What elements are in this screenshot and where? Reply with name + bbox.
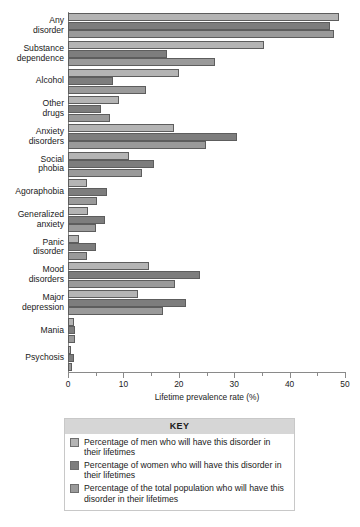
bar-men bbox=[68, 69, 179, 77]
bar-men bbox=[68, 41, 264, 49]
bar-women bbox=[68, 188, 107, 196]
lifetime-prevalence-bar-chart: Any disorderSubstance dependenceAlcoholO… bbox=[0, 0, 360, 408]
bar-men bbox=[68, 96, 119, 104]
axis-tick-minor bbox=[96, 373, 97, 376]
bar-women bbox=[68, 243, 96, 251]
axis-tick-major bbox=[345, 373, 346, 378]
axis-tick-major bbox=[179, 373, 180, 378]
key-title: KEY bbox=[65, 419, 294, 434]
bar-men bbox=[68, 207, 88, 215]
key-swatch-women bbox=[70, 461, 79, 470]
axis-tick-minor bbox=[207, 373, 208, 376]
category-label: Social phobia bbox=[0, 155, 64, 174]
axis-tick-label: 40 bbox=[285, 379, 294, 389]
bar-group bbox=[68, 13, 345, 38]
bar-women bbox=[68, 22, 330, 30]
category-label: Generalized anxiety bbox=[0, 210, 64, 229]
bar-total bbox=[68, 224, 96, 232]
bar-men bbox=[68, 346, 71, 354]
axis-tick-major bbox=[68, 373, 69, 378]
plot-area bbox=[68, 12, 345, 372]
category-label: Substance dependence bbox=[0, 44, 64, 63]
category-label: Major depression bbox=[0, 293, 64, 312]
bar-total bbox=[68, 114, 110, 122]
axis-tick-major bbox=[290, 373, 291, 378]
key-item: Percentage of men who will have this dis… bbox=[70, 437, 289, 458]
bar-men bbox=[68, 290, 138, 298]
bar-total bbox=[68, 30, 334, 38]
bar-women bbox=[68, 133, 237, 141]
category-label: Mood disorders bbox=[0, 265, 64, 284]
bar-total bbox=[68, 141, 206, 149]
bar-total bbox=[68, 335, 75, 343]
category-label: Agoraphobia bbox=[0, 187, 64, 197]
category-label: Alcohol bbox=[0, 76, 64, 86]
bar-group bbox=[68, 41, 345, 66]
bar-men bbox=[68, 124, 174, 132]
axis-tick-label: 20 bbox=[174, 379, 183, 389]
bar-total bbox=[68, 58, 215, 66]
bar-total bbox=[68, 169, 142, 177]
key-item: Percentage of women who will have this d… bbox=[70, 460, 289, 481]
bar-group bbox=[68, 179, 345, 204]
bar-total bbox=[68, 197, 97, 205]
bar-men bbox=[68, 179, 87, 187]
bar-women bbox=[68, 271, 200, 279]
bar-group bbox=[68, 96, 345, 121]
key-items: Percentage of men who will have this dis… bbox=[65, 434, 294, 511]
bar-group bbox=[68, 152, 345, 177]
bar-group bbox=[68, 290, 345, 315]
bar-women bbox=[68, 50, 167, 58]
axis-tick-major bbox=[123, 373, 124, 378]
chart-key: KEY Percentage of men who will have this… bbox=[64, 418, 295, 511]
bar-men bbox=[68, 152, 129, 160]
bar-total bbox=[68, 363, 72, 371]
category-label: Mania bbox=[0, 326, 64, 336]
bar-women bbox=[68, 105, 101, 113]
bar-women bbox=[68, 354, 74, 362]
bar-women bbox=[68, 160, 154, 168]
category-label: Other drugs bbox=[0, 99, 64, 118]
bar-women bbox=[68, 326, 75, 334]
axis-tick-minor bbox=[317, 373, 318, 376]
bar-group bbox=[68, 235, 345, 260]
axis-tick-label: 50 bbox=[340, 379, 349, 389]
axis-tick-label: 0 bbox=[66, 379, 71, 389]
key-item-label: Percentage of the total population who w… bbox=[84, 483, 289, 504]
key-swatch-men bbox=[70, 438, 79, 447]
axis-tick-minor bbox=[262, 373, 263, 376]
bar-total bbox=[68, 86, 146, 94]
bar-group bbox=[68, 69, 345, 94]
bar-women bbox=[68, 77, 113, 85]
key-swatch-total bbox=[70, 484, 79, 493]
bar-men bbox=[68, 318, 74, 326]
bar-group bbox=[68, 262, 345, 287]
bar-total bbox=[68, 280, 175, 288]
axis-tick-major bbox=[234, 373, 235, 378]
bar-men bbox=[68, 235, 79, 243]
bar-total bbox=[68, 307, 163, 315]
x-axis-title: Lifetime prevalence rate (%) bbox=[68, 392, 346, 402]
category-label: Anxiety disorders bbox=[0, 127, 64, 146]
bar-group bbox=[68, 207, 345, 232]
bar-group bbox=[68, 346, 345, 371]
key-item: Percentage of the total population who w… bbox=[70, 483, 289, 504]
category-label: Any disorder bbox=[0, 16, 64, 35]
axis-tick-label: 30 bbox=[230, 379, 239, 389]
key-item-label: Percentage of women who will have this d… bbox=[84, 460, 289, 481]
bar-men bbox=[68, 13, 339, 21]
bar-women bbox=[68, 299, 186, 307]
category-label: Panic disorder bbox=[0, 238, 64, 257]
bar-group bbox=[68, 124, 345, 149]
bar-women bbox=[68, 216, 105, 224]
key-item-label: Percentage of men who will have this dis… bbox=[84, 437, 289, 458]
bar-men bbox=[68, 262, 149, 270]
bar-group bbox=[68, 318, 345, 343]
bar-total bbox=[68, 252, 87, 260]
axis-tick-label: 10 bbox=[119, 379, 128, 389]
axis-tick-minor bbox=[151, 373, 152, 376]
category-axis-labels: Any disorderSubstance dependenceAlcoholO… bbox=[0, 12, 64, 372]
category-label: Psychosis bbox=[0, 353, 64, 363]
